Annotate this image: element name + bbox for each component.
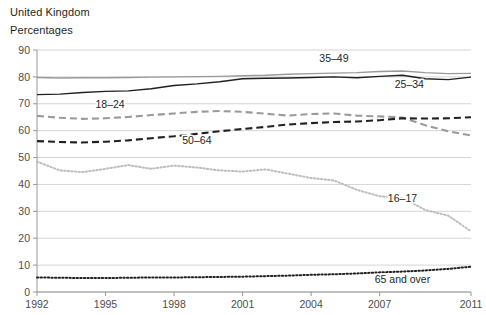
chart-container: United Kingdom Percentages 0102030405060…: [0, 0, 486, 315]
x-axis-ticks: 1992199519982001200420072011: [25, 292, 482, 310]
x-tick-label-2011: 2011: [460, 298, 483, 310]
series-label-18-24: 18–24: [95, 98, 124, 110]
series-label-25-34: 25–34: [395, 78, 424, 90]
y-axis-ticks: 0102030405060708090: [18, 44, 37, 298]
x-tick-label-1992: 1992: [25, 298, 49, 310]
series-label-16-17: 16–17: [388, 192, 417, 204]
y-tick-label-80: 80: [18, 71, 30, 83]
y-tick-label-40: 40: [18, 178, 30, 190]
series-label-35-49: 35–49: [319, 52, 348, 64]
x-tick-label-1998: 1998: [162, 298, 186, 310]
x-tick-label-1995: 1995: [94, 298, 118, 310]
y-tick-label-90: 90: [18, 44, 30, 56]
y-tick-label-20: 20: [18, 232, 30, 244]
series-line-50-64: [37, 117, 471, 142]
series-label-50-64: 50–64: [182, 134, 211, 146]
series-line-18-24: [37, 111, 471, 135]
x-tick-label-2004: 2004: [299, 298, 323, 310]
y-tick-label-0: 0: [24, 286, 30, 298]
y-tick-label-70: 70: [18, 97, 30, 109]
y-tick-label-50: 50: [18, 151, 30, 163]
x-tick-label-2001: 2001: [231, 298, 255, 310]
series-label-65-and-over: 65 and over: [375, 273, 431, 285]
y-tick-label-30: 30: [18, 205, 30, 217]
line-chart-plot: 0102030405060708090 19921995199820012004…: [0, 0, 486, 315]
y-tick-label-60: 60: [18, 124, 30, 136]
x-tick-label-2007: 2007: [368, 298, 392, 310]
y-tick-label-10: 10: [18, 259, 30, 271]
